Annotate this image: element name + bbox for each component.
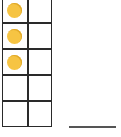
row-divider — [3, 22, 51, 24]
row-divider — [3, 48, 51, 50]
answer-blank[interactable] — [69, 126, 116, 128]
counter-dot — [7, 3, 22, 18]
column-divider — [27, 0, 29, 126]
ten-frame — [2, 0, 52, 127]
counter-dot — [7, 55, 22, 70]
row-divider — [3, 74, 51, 76]
row-divider — [3, 100, 51, 102]
counter-dot — [7, 29, 22, 44]
